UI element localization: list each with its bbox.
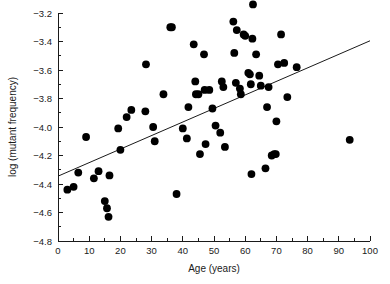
- y-tick-label: −4.4: [33, 179, 52, 190]
- data-point: [221, 143, 229, 151]
- data-point: [151, 137, 159, 145]
- data-point: [160, 90, 168, 98]
- data-point: [229, 18, 237, 26]
- data-point: [252, 50, 260, 58]
- x-tick-label: 0: [55, 245, 60, 256]
- y-tick-label: −3.2: [33, 8, 52, 19]
- x-tick-label: 50: [209, 245, 220, 256]
- data-point: [219, 83, 227, 91]
- data-point: [114, 125, 122, 133]
- data-point: [141, 107, 149, 115]
- x-tick-label: 30: [146, 245, 157, 256]
- data-point: [237, 90, 245, 98]
- data-point: [230, 49, 238, 57]
- data-point: [106, 172, 114, 180]
- x-tick-label: 70: [271, 245, 282, 256]
- y-tick-label: −4.8: [33, 236, 52, 247]
- data-point: [233, 26, 241, 34]
- scatter-plot-figure: 0102030405060708090100 −3.2−3.4−3.6−3.8−…: [0, 0, 390, 284]
- data-point: [209, 105, 217, 113]
- data-point: [179, 125, 187, 133]
- data-point: [195, 90, 203, 98]
- data-point: [277, 30, 285, 38]
- y-tick-label: −3.8: [33, 93, 52, 104]
- data-point: [262, 164, 270, 172]
- data-point: [272, 150, 280, 158]
- data-point: [200, 50, 208, 58]
- y-tick-label: −3.6: [33, 65, 52, 76]
- data-point: [101, 197, 109, 205]
- data-point: [142, 60, 150, 68]
- data-point: [103, 204, 111, 212]
- data-point: [123, 113, 131, 121]
- x-tick-label: 90: [334, 245, 345, 256]
- data-point: [263, 103, 271, 111]
- y-tick-label: −4.0: [33, 122, 52, 133]
- x-tick-label: 100: [362, 245, 378, 256]
- data-point: [212, 122, 220, 130]
- data-point: [90, 174, 98, 182]
- x-tick-label: 40: [178, 245, 189, 256]
- y-tick-label: −4.2: [33, 150, 52, 161]
- data-point: [149, 123, 157, 131]
- data-point: [105, 213, 113, 221]
- data-point: [216, 129, 224, 137]
- y-tick-label: −3.4: [33, 36, 52, 47]
- data-point: [183, 135, 191, 143]
- data-point: [232, 79, 240, 87]
- data-point: [241, 32, 249, 40]
- data-point: [205, 86, 213, 94]
- data-point: [273, 117, 281, 125]
- x-axis-title: Age (years): [188, 263, 240, 274]
- x-tick-label: 20: [115, 245, 126, 256]
- data-point: [346, 136, 354, 144]
- data-point: [248, 35, 256, 43]
- data-point: [185, 103, 193, 111]
- data-point: [249, 1, 257, 9]
- data-point: [293, 63, 301, 71]
- data-point: [95, 167, 103, 175]
- y-axis-tick-labels: −3.2−3.4−3.6−3.8−4.0−4.2−4.4−4.6−4.8: [33, 8, 52, 247]
- data-point: [168, 23, 176, 31]
- data-point: [117, 146, 125, 154]
- y-tick-label: −4.6: [33, 207, 52, 218]
- x-tick-label: 60: [240, 245, 251, 256]
- data-point: [280, 59, 288, 67]
- data-point: [265, 83, 273, 91]
- data-point: [74, 169, 82, 177]
- data-point: [246, 70, 254, 78]
- y-axis-title: log (mutant frequency): [7, 77, 18, 177]
- data-point: [70, 183, 78, 191]
- data-point: [190, 40, 198, 48]
- data-point: [82, 133, 90, 141]
- x-tick-label: 80: [302, 245, 313, 256]
- data-point: [283, 93, 291, 101]
- data-point: [191, 78, 199, 86]
- x-tick-label: 10: [84, 245, 95, 256]
- data-point: [255, 72, 263, 80]
- data-point: [173, 190, 181, 198]
- chart-canvas: 0102030405060708090100 −3.2−3.4−3.6−3.8−…: [0, 0, 390, 284]
- data-point: [202, 140, 210, 148]
- data-point: [127, 106, 135, 114]
- data-point: [257, 82, 265, 90]
- data-point: [196, 150, 204, 158]
- data-point: [248, 170, 256, 178]
- data-point: [247, 80, 255, 88]
